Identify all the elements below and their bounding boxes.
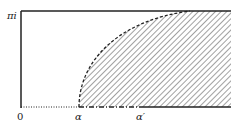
label-alpha-prime: α′	[136, 111, 146, 122]
strip-diagram: πi 0 α α′	[0, 0, 231, 128]
label-origin: 0	[17, 111, 23, 122]
label-pi-i: πi	[6, 10, 17, 21]
label-alpha: α	[75, 111, 82, 122]
hatched-region	[79, 11, 231, 107]
